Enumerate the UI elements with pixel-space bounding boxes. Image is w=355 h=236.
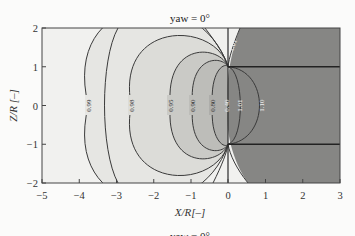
- footer-caption: yaw = 0°: [170, 230, 210, 236]
- svg-text:0.95: 0.95: [167, 99, 175, 112]
- svg-text:−3: −3: [111, 190, 122, 201]
- svg-text:0.98: 0.98: [128, 99, 136, 112]
- svg-text:−5: −5: [36, 190, 47, 201]
- svg-text:0.80: 0.80: [209, 99, 217, 112]
- contour-chart: 0.99 0.98 0.95 0.90 0.80 0.40 1.01 1.10 …: [0, 0, 355, 236]
- svg-text:1: 1: [263, 190, 268, 201]
- svg-text:3: 3: [337, 190, 342, 201]
- svg-text:−4: −4: [74, 190, 86, 201]
- svg-text:1: 1: [33, 62, 38, 73]
- svg-text:0: 0: [33, 101, 38, 112]
- svg-text:1.01: 1.01: [236, 99, 244, 112]
- x-axis-label: X/R[–]: [174, 206, 206, 218]
- plot-area: 0.99 0.98 0.95 0.90 0.80 0.40 1.01 1.10 …: [42, 9, 340, 201]
- chart-title: yaw = 0°: [170, 12, 210, 24]
- svg-text:2: 2: [300, 190, 305, 201]
- svg-text:−2: −2: [148, 190, 159, 201]
- svg-text:2: 2: [33, 23, 38, 34]
- svg-text:1.10: 1.10: [258, 99, 266, 112]
- y-tick-labels: 2 1 0 −1 −2: [27, 23, 38, 189]
- y-axis-label: Z/R [–]: [7, 89, 19, 122]
- svg-text:−2: −2: [27, 178, 38, 189]
- x-tick-labels: −5 −4 −3 −2 −1 0 1 2 3: [36, 190, 342, 201]
- svg-text:0.90: 0.90: [189, 99, 197, 112]
- svg-text:0.99: 0.99: [85, 99, 93, 112]
- svg-text:−1: −1: [185, 190, 196, 201]
- svg-text:0.40: 0.40: [223, 99, 231, 112]
- svg-text:0: 0: [225, 190, 230, 201]
- svg-text:−1: −1: [27, 139, 38, 150]
